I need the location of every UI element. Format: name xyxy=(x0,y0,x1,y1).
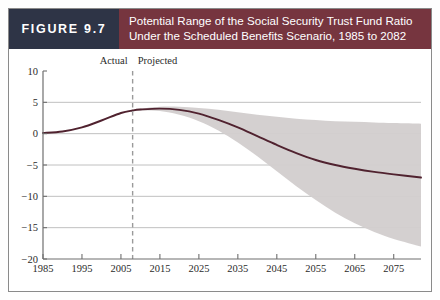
x-axis-tick-label: 2005 xyxy=(110,263,131,274)
figure-title-line-1: Potential Range of the Social Security T… xyxy=(129,14,425,29)
y-axis-tick-label: 5 xyxy=(33,97,38,108)
figure-frame: FIGURE 9.7 Potential Range of the Social… xyxy=(8,8,432,292)
figure-number-box: FIGURE 9.7 xyxy=(9,9,119,49)
x-axis-tick-label: 2065 xyxy=(344,263,365,274)
actual-label: Actual xyxy=(100,55,128,66)
x-axis-tick-label: 2045 xyxy=(266,263,287,274)
projected-label: Projected xyxy=(138,55,178,66)
figure-header: FIGURE 9.7 Potential Range of the Social… xyxy=(9,9,431,49)
figure-title-line-2: Under the Scheduled Benefits Scenario, 1… xyxy=(129,29,425,44)
y-axis-tick-label: −5 xyxy=(27,160,38,171)
y-axis-tick-label: −10 xyxy=(22,191,38,202)
figure-title-box: Potential Range of the Social Security T… xyxy=(119,9,431,49)
y-axis-tick-label: −15 xyxy=(22,222,38,233)
x-axis-tick-label: 2075 xyxy=(383,263,404,274)
x-axis-tick-label: 1985 xyxy=(33,263,54,274)
x-axis-tick-label: 2055 xyxy=(305,263,326,274)
x-axis-tick-label: 2015 xyxy=(149,263,170,274)
x-axis-tick-label: 2035 xyxy=(227,263,248,274)
chart-region: ActualProjected1050−5−10−15−201985199520… xyxy=(9,49,431,291)
y-axis-tick-label: 10 xyxy=(28,66,39,77)
trust-fund-ratio-chart: ActualProjected1050−5−10−15−201985199520… xyxy=(9,49,431,291)
x-axis-tick-label: 2025 xyxy=(188,263,209,274)
y-axis-tick-label: 0 xyxy=(33,128,38,139)
figure-number-label: FIGURE 9.7 xyxy=(21,22,106,36)
figure-root: FIGURE 9.7 Potential Range of the Social… xyxy=(0,0,440,300)
x-axis-tick-label: 1995 xyxy=(71,263,92,274)
